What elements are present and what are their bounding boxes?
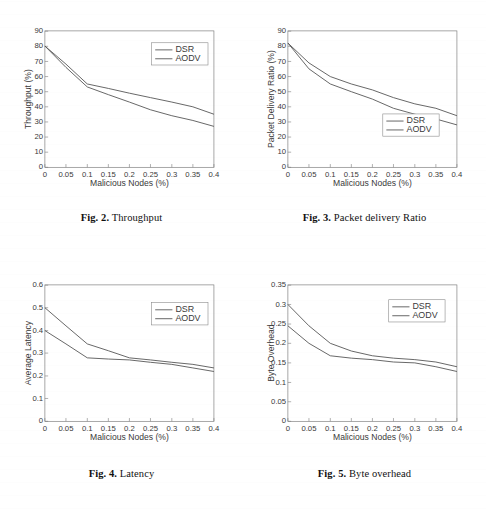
y-axis-tick-labels: 0 10 20 30 40 50 60 70 80 90 [277, 26, 286, 171]
svg-text:10: 10 [34, 147, 43, 156]
svg-text:50: 50 [277, 87, 286, 96]
y-axis-title: Throughput (%) [22, 69, 32, 129]
legend-label-aodv: AODV [406, 124, 431, 134]
svg-text:0.2: 0.2 [32, 371, 43, 380]
figure-caption-number: Fig. 3. [303, 212, 331, 223]
svg-text:0.3: 0.3 [32, 348, 43, 357]
y-axis-ticks [44, 31, 47, 167]
svg-text:40: 40 [34, 102, 43, 111]
svg-text:0.05: 0.05 [271, 397, 286, 406]
x-axis-title: Malicious Nodes (%) [90, 178, 169, 188]
svg-text:0.4: 0.4 [451, 424, 462, 433]
figure-caption-text: Packet delivery Ratio [334, 212, 427, 223]
chart-byte-overhead: 0 0.05 0.1 0.15 0.2 0.25 0.3 0.35 [261, 276, 469, 448]
plot-area-packet-delivery-ratio: 0 10 20 30 40 50 60 70 80 90 [261, 22, 469, 194]
svg-text:70: 70 [277, 57, 286, 66]
svg-text:70: 70 [34, 57, 43, 66]
svg-text:0: 0 [42, 424, 46, 433]
svg-text:0.35: 0.35 [428, 170, 443, 179]
x-axis-ticks [287, 418, 456, 421]
x-axis-title: Malicious Nodes (%) [90, 432, 169, 442]
svg-text:50: 50 [34, 87, 43, 96]
svg-text:0.4: 0.4 [208, 170, 219, 179]
y-axis-ticks [44, 285, 47, 421]
y-axis-title: Average Latency [22, 320, 32, 385]
svg-text:30: 30 [277, 117, 286, 126]
x-axis-ticks [44, 418, 213, 421]
svg-text:0.05: 0.05 [58, 170, 73, 179]
chart-packet-delivery-ratio: 0 10 20 30 40 50 60 70 80 90 [261, 22, 469, 194]
svg-text:0.05: 0.05 [301, 424, 316, 433]
series-line-aodv [287, 326, 456, 372]
figure-caption-text: Throughput [112, 212, 163, 223]
svg-text:30: 30 [34, 117, 43, 126]
chart-legend: DSR AODV [151, 43, 207, 65]
x-axis-title: Malicious Nodes (%) [333, 432, 412, 442]
figure-grid: 0 10 20 30 40 50 60 70 80 90 [0, 0, 486, 509]
svg-text:0.35: 0.35 [185, 424, 200, 433]
legend-label-aodv: AODV [412, 310, 437, 320]
svg-text:10: 10 [277, 147, 286, 156]
y-axis-tick-labels: 0 0.1 0.2 0.3 0.4 0.5 0.6 [32, 280, 43, 425]
svg-text:60: 60 [277, 72, 286, 81]
svg-text:0.6: 0.6 [32, 280, 43, 289]
svg-text:0.4: 0.4 [451, 170, 462, 179]
svg-text:0.2: 0.2 [275, 338, 286, 347]
svg-text:0.05: 0.05 [58, 424, 73, 433]
svg-text:0.35: 0.35 [185, 170, 200, 179]
svg-text:40: 40 [277, 102, 286, 111]
series-line-dsr [287, 43, 456, 116]
chart-legend: DSR AODV [382, 114, 438, 136]
plot-area-latency: 0 0.1 0.2 0.3 0.4 0.5 0.6 [18, 276, 226, 448]
svg-text:0.1: 0.1 [32, 394, 43, 403]
svg-text:0.35: 0.35 [271, 280, 286, 289]
figure-caption-2: Fig. 2. Throughput [0, 212, 243, 223]
svg-text:0: 0 [285, 424, 289, 433]
svg-text:0.05: 0.05 [301, 170, 316, 179]
plot-area-byte-overhead: 0 0.05 0.1 0.15 0.2 0.25 0.3 0.35 [261, 276, 469, 448]
svg-text:80: 80 [34, 41, 43, 50]
y-axis-title: Byte Overhead [265, 324, 275, 382]
figure-caption-text: Latency [120, 468, 155, 479]
figure-caption-3: Fig. 3. Packet delivery Ratio [243, 212, 486, 223]
svg-text:0.1: 0.1 [275, 378, 286, 387]
figure-panel-byte-overhead: 0 0.05 0.1 0.15 0.2 0.25 0.3 0.35 [243, 254, 486, 509]
figure-caption-5: Fig. 5. Byte overhead [243, 468, 486, 479]
svg-text:90: 90 [34, 26, 43, 35]
chart-latency: 0 0.1 0.2 0.3 0.4 0.5 0.6 [18, 276, 226, 448]
figure-caption-number: Fig. 2. [81, 212, 109, 223]
x-axis-title: Malicious Nodes (%) [333, 178, 412, 188]
x-axis-ticks [44, 164, 213, 167]
svg-text:20: 20 [277, 132, 286, 141]
figure-caption-number: Fig. 4. [89, 468, 117, 479]
legend-label-aodv: AODV [175, 53, 200, 63]
svg-text:90: 90 [277, 26, 286, 35]
figure-caption-4: Fig. 4. Latency [0, 468, 243, 479]
legend-label-aodv: AODV [175, 313, 200, 323]
svg-text:60: 60 [34, 72, 43, 81]
svg-text:0: 0 [42, 170, 46, 179]
chart-legend: DSR AODV [388, 300, 444, 322]
x-axis-ticks [287, 164, 456, 167]
svg-text:0.4: 0.4 [208, 424, 219, 433]
figure-caption-text: Byte overhead [349, 468, 411, 479]
y-axis-tick-labels: 0 10 20 30 40 50 60 70 80 90 [34, 26, 43, 171]
svg-text:20: 20 [34, 132, 43, 141]
svg-text:0.3: 0.3 [275, 300, 286, 309]
series-line-aodv [44, 331, 213, 372]
svg-text:0.35: 0.35 [428, 424, 443, 433]
figure-caption-number: Fig. 5. [318, 468, 346, 479]
figure-panel-latency: 0 0.1 0.2 0.3 0.4 0.5 0.6 [0, 254, 243, 509]
figure-panel-throughput: 0 10 20 30 40 50 60 70 80 90 [0, 0, 243, 254]
series-line-aodv [287, 43, 456, 125]
svg-text:0.5: 0.5 [32, 303, 43, 312]
chart-throughput: 0 10 20 30 40 50 60 70 80 90 [18, 22, 226, 194]
svg-text:80: 80 [277, 41, 286, 50]
plot-area-throughput: 0 10 20 30 40 50 60 70 80 90 [18, 22, 226, 194]
y-axis-ticks [287, 31, 290, 167]
figure-panel-packet-delivery-ratio: 0 10 20 30 40 50 60 70 80 90 [243, 0, 486, 254]
svg-text:0: 0 [285, 170, 289, 179]
svg-text:0.4: 0.4 [32, 326, 43, 335]
y-axis-title: Packet Delivery Ratio (%) [265, 50, 275, 148]
chart-legend: DSR AODV [151, 303, 207, 325]
